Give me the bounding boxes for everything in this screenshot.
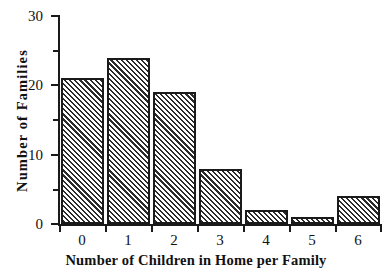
x-tick-boundary-2	[151, 226, 153, 232]
bar-2	[153, 92, 196, 224]
x-tick-label-5: 5	[292, 233, 332, 248]
bar-5	[291, 217, 334, 224]
y-tick-10	[51, 154, 59, 156]
x-tick-label-1: 1	[108, 233, 148, 248]
y-axis-title: Number of Families	[14, 11, 31, 231]
x-tick-boundary-1	[105, 226, 107, 232]
y-tick-5	[53, 189, 59, 191]
x-tick-boundary-0	[59, 226, 61, 232]
x-tick-boundary-5	[289, 226, 291, 232]
y-tick-20	[51, 84, 59, 86]
y-tick-30	[51, 15, 59, 17]
x-tick-label-3: 3	[200, 233, 240, 248]
x-tick-label-2: 2	[154, 233, 194, 248]
histogram-figure: 30 20 10 0 0 1 2 3 4 5 6 Number of Child…	[0, 0, 392, 273]
bar-3	[199, 169, 242, 224]
x-tick-boundary-3	[197, 226, 199, 232]
y-tick-0	[51, 223, 59, 225]
x-tick-boundary-4	[243, 226, 245, 232]
bar-4	[245, 210, 288, 224]
x-tick-label-4: 4	[246, 233, 286, 248]
x-tick-boundary-7	[380, 226, 382, 232]
bar-6	[337, 196, 380, 224]
plot-area	[60, 16, 381, 224]
bar-1	[107, 58, 150, 224]
x-tick-label-6: 6	[338, 233, 378, 248]
y-tick-25	[53, 50, 59, 52]
bar-0	[61, 78, 104, 224]
x-tick-label-0: 0	[62, 233, 102, 248]
x-tick-boundary-6	[335, 226, 337, 232]
x-axis-title: Number of Children in Home per Family	[0, 252, 392, 269]
y-tick-15	[53, 119, 59, 121]
